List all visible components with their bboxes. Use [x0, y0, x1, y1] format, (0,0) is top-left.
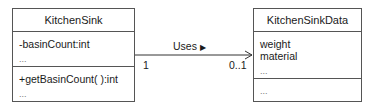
association-label: Uses ▶ — [173, 40, 206, 52]
source-multiplicity: 1 — [143, 59, 149, 71]
association-line — [0, 0, 372, 109]
target-multiplicity: 0..1 — [229, 59, 247, 71]
association-name: Uses — [173, 40, 197, 52]
direction-triangle-icon: ▶ — [200, 43, 206, 52]
